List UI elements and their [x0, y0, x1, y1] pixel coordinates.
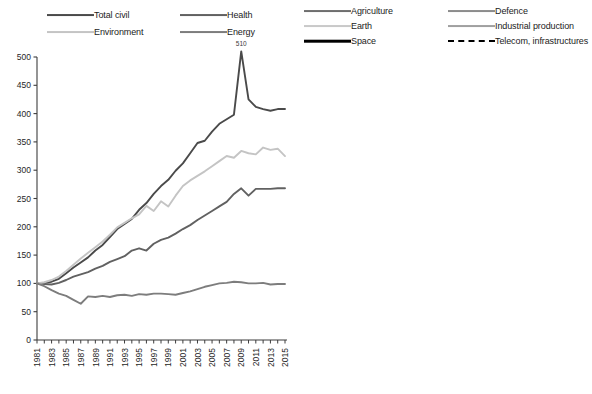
right-chart-panel: Agriculture Defence Earth Industrial pro…	[296, 0, 592, 394]
legend-label: Earth	[351, 21, 372, 31]
legend-item-defence[interactable]: Defence	[448, 6, 528, 16]
x-tick-label: 2009	[236, 348, 246, 367]
y-tick-label: 400	[17, 109, 31, 119]
y-tick-label: 50	[22, 307, 32, 317]
x-tick-label: 1999	[163, 348, 173, 367]
series-line-energy	[37, 282, 285, 304]
x-tick-label: 1985	[61, 348, 71, 367]
series-line-environment	[37, 148, 285, 284]
legend-label: Total civil	[94, 10, 129, 20]
legend-label: Agriculture	[351, 6, 393, 16]
legend-swatch-line-icon	[304, 6, 351, 16]
x-tick-label: 1991	[105, 348, 115, 367]
legend-item-earth[interactable]: Earth	[304, 21, 372, 31]
x-tick-label: 1989	[91, 348, 101, 367]
x-tick-label: 1987	[76, 348, 86, 367]
right-chart-plot: 0501001502002503003504004505001981198319…	[296, 0, 592, 394]
x-tick-label: 1995	[134, 348, 144, 367]
x-tick-label: 1981	[32, 348, 42, 367]
left-chart-plot: 0501001502002503003504004505001981198319…	[0, 0, 296, 394]
legend-swatch-line-icon	[304, 21, 351, 31]
x-tick-label: 1983	[47, 348, 57, 367]
legend-item-agriculture[interactable]: Agriculture	[304, 6, 393, 16]
y-tick-label: 0	[26, 335, 31, 345]
x-tick-label: 2007	[222, 348, 232, 367]
legend-label: Health	[227, 10, 252, 20]
y-tick-label: 200	[17, 222, 31, 232]
legend-swatch-line-icon	[180, 27, 227, 37]
legend-item-space[interactable]: Space	[304, 36, 376, 46]
legend-label: Space	[351, 36, 376, 46]
legend-label: Energy	[227, 27, 255, 37]
y-tick-label: 500	[17, 52, 31, 62]
y-tick-label: 250	[17, 194, 31, 204]
left-chart-panel: Total civil Health Environment Energy 05…	[0, 0, 296, 394]
x-tick-label: 1997	[149, 348, 159, 367]
x-tick-label: 2015	[280, 348, 290, 367]
legend-swatch-line-icon	[304, 36, 351, 46]
legend-swatch-line-icon	[47, 10, 94, 20]
left-chart-legend: Total civil Health Environment Energy	[0, 0, 296, 52]
legend-label: Industrial production	[495, 21, 574, 31]
series-line-total-civil	[37, 51, 285, 283]
y-tick-label: 450	[17, 80, 31, 90]
legend-item-environment[interactable]: Environment	[47, 27, 143, 37]
legend-item-total-civil[interactable]: Total civil	[47, 10, 129, 20]
legend-item-health[interactable]: Health	[180, 10, 252, 20]
legend-label: Environment	[94, 27, 143, 37]
y-tick-label: 150	[17, 250, 31, 260]
legend-swatch-line-icon	[47, 27, 94, 37]
x-tick-label: 2003	[193, 348, 203, 367]
y-tick-label: 350	[17, 137, 31, 147]
right-chart-legend: Agriculture Defence Earth Industrial pro…	[296, 0, 592, 52]
y-tick-label: 300	[17, 165, 31, 175]
legend-item-telecom-infrastructures[interactable]: Telecom, infrastructures	[448, 36, 588, 46]
x-tick-label: 2001	[178, 348, 188, 367]
legend-swatch-line-icon	[180, 10, 227, 20]
y-tick-label: 100	[17, 278, 31, 288]
x-tick-label: 2011	[251, 348, 261, 367]
x-tick-label: 2013	[266, 348, 276, 367]
legend-swatch-line-icon	[448, 36, 495, 46]
x-tick-label: 2005	[207, 348, 217, 367]
legend-swatch-line-icon	[448, 6, 495, 16]
legend-label: Telecom, infrastructures	[495, 36, 588, 46]
legend-swatch-line-icon	[448, 21, 495, 31]
dual-line-chart-figure: Total civil Health Environment Energy 05…	[0, 0, 592, 394]
legend-label: Defence	[495, 6, 528, 16]
legend-item-energy[interactable]: Energy	[180, 27, 255, 37]
legend-item-industrial-production[interactable]: Industrial production	[448, 21, 574, 31]
x-tick-label: 1993	[120, 348, 130, 367]
